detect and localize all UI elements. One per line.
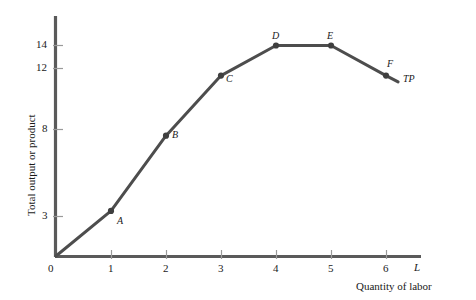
x-tick-label-4: 4 [273, 263, 279, 274]
y-axis-title: Total output or product [26, 114, 37, 216]
data-point-F [383, 73, 389, 79]
point-label-B: B [172, 130, 178, 140]
x-tick-label-6: 6 [383, 263, 389, 274]
y-tick-label-8: 8 [42, 123, 48, 134]
y-tick-label-14: 14 [36, 39, 47, 50]
x-tick-label-0: 0 [48, 263, 54, 274]
x-axis-symbol-L: L [414, 262, 420, 273]
point-label-C: C [226, 74, 233, 84]
data-point-B [163, 133, 169, 139]
point-label-F: F [387, 59, 393, 69]
curve-series-label-tp: TP [403, 74, 415, 84]
x-axis-title: Quantity of labor [356, 281, 432, 292]
data-point-markers [108, 42, 389, 214]
x-tick-label-3: 3 [218, 263, 224, 274]
data-point-E [328, 42, 334, 48]
data-point-D [273, 42, 279, 48]
chart-plot-area [0, 0, 476, 300]
x-tick-label-1: 1 [108, 263, 114, 274]
x-tick-label-2: 2 [163, 263, 169, 274]
total-product-chart-figure: 14 12 8 3 0 1 2 3 4 5 6 A B C D E F TP T… [0, 0, 476, 300]
y-tick-label-3: 3 [42, 210, 48, 221]
point-label-A: A [117, 216, 123, 226]
data-point-A [108, 208, 114, 214]
x-tick-label-5: 5 [328, 263, 334, 274]
point-label-D: D [272, 31, 279, 41]
point-label-E: E [327, 31, 333, 41]
data-point-C [218, 73, 224, 79]
y-tick-label-12: 12 [36, 62, 47, 73]
